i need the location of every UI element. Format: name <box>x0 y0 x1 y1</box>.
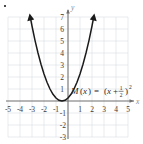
function-formula-label: M ( x ) = ( x + 1 2 ) 2 <box>70 84 132 98</box>
y-tick: 4 <box>60 49 64 58</box>
formula-plus: + <box>113 86 118 96</box>
x-tick: 1 <box>78 105 82 114</box>
x-tick: -1 <box>53 105 59 114</box>
axes <box>6 9 134 139</box>
y-tick: -1 <box>60 109 66 118</box>
y-axis-label: y <box>70 3 75 12</box>
y-tick-labels: 7 6 5 4 3 2 1 -1 -2 -3 <box>60 13 66 142</box>
x-tick: 5 <box>126 105 130 114</box>
formula-arg-close: ) <box>88 86 91 96</box>
formula-exponent: 2 <box>129 84 132 90</box>
curve-arrow-left <box>27 14 34 22</box>
curve-arrow-right <box>90 14 97 22</box>
x-tick: -2 <box>41 105 47 114</box>
y-tick: 7 <box>60 13 64 22</box>
y-tick: 2 <box>60 73 64 82</box>
y-tick: 1 <box>60 85 64 94</box>
formula-arg: x <box>82 86 87 96</box>
x-tick: 2 <box>90 105 94 114</box>
x-tick: 4 <box>114 105 118 114</box>
formula-body-var: x <box>106 86 111 96</box>
y-tick: 5 <box>60 37 64 46</box>
y-axis-arrowhead <box>66 9 70 14</box>
formula-fraction-denominator: 2 <box>120 92 123 98</box>
x-tick: 3 <box>102 105 106 114</box>
x-axis-arrowhead <box>130 99 135 103</box>
x-tick: -3 <box>29 105 35 114</box>
formula-body-close: ) <box>125 86 128 96</box>
coordinate-plane: y x -5 -4 -3 -2 -1 1 2 3 4 5 7 6 5 4 3 2… <box>0 0 143 144</box>
y-tick: -2 <box>60 121 66 130</box>
y-tick: 6 <box>60 25 64 34</box>
x-axis-label: x <box>135 97 140 106</box>
y-tick: 3 <box>60 61 64 70</box>
x-tick: -5 <box>5 105 11 114</box>
formula-equals: = <box>94 86 99 96</box>
formula-fraction-numerator: 1 <box>120 85 123 91</box>
x-tick: -4 <box>17 105 23 114</box>
formula-func-name: M <box>70 86 79 96</box>
y-tick: -3 <box>60 133 66 142</box>
graph-figure: y x -5 -4 -3 -2 -1 1 2 3 4 5 7 6 5 4 3 2… <box>0 0 143 144</box>
